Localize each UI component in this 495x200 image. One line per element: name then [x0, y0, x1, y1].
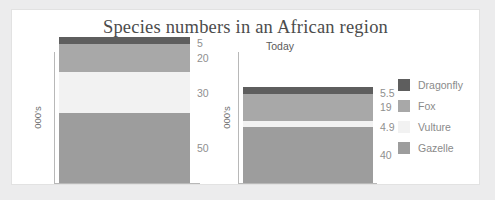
legend-swatch-icon — [398, 100, 410, 112]
chart-legend: DragonflyFoxVultureGazelle — [398, 74, 486, 158]
segment-value-label: 50 — [197, 143, 209, 154]
legend-label: Dragonfly — [418, 79, 463, 91]
segment-value-label: 30 — [197, 87, 209, 98]
legend-label: Vulture — [418, 121, 451, 133]
panel-title-today: Today — [200, 40, 360, 52]
stacked-bar-1960: 5203050 — [59, 37, 190, 183]
segment-value-label: 5.5 — [380, 88, 395, 99]
stacked-bar-today: 5.5194.940 — [243, 87, 373, 183]
segment-value-label: 20 — [197, 53, 209, 64]
y-axis-label-today: 000's — [221, 98, 232, 138]
bar-segment-vulture: 4.9 — [243, 121, 373, 128]
segment-value-label: 19 — [380, 102, 392, 113]
bar-segment-fox: 19 — [243, 94, 373, 120]
legend-swatch-icon — [398, 142, 410, 154]
x-axis-line-today — [238, 183, 377, 184]
bar-segment-fox: 20 — [59, 44, 190, 72]
legend-swatch-icon — [398, 79, 410, 91]
legend-swatch-icon — [398, 121, 410, 133]
chart-title: Species numbers in an African region — [12, 17, 479, 38]
chart-card: Species numbers in an African region 196… — [11, 9, 480, 185]
segment-value-label: 40 — [380, 150, 392, 161]
legend-item-dragonfly[interactable]: Dragonfly — [398, 74, 486, 95]
bar-segment-dragonfly: 5 — [59, 37, 190, 44]
legend-item-fox[interactable]: Fox — [398, 95, 486, 116]
legend-item-vulture[interactable]: Vulture — [398, 116, 486, 137]
chart-panel-1960: 1960 000's 5203050 — [26, 40, 216, 180]
bar-segment-dragonfly: 5.5 — [243, 87, 373, 95]
bar-segment-gazelle: 50 — [59, 113, 190, 183]
chart-panel-today: Today 000's 5.5194.940 — [208, 40, 368, 180]
legend-label: Gazelle — [418, 142, 454, 154]
legend-item-gazelle[interactable]: Gazelle — [398, 137, 486, 158]
bar-segment-gazelle: 40 — [243, 127, 373, 183]
x-axis-line-1960 — [54, 183, 200, 184]
legend-label: Fox — [418, 100, 436, 112]
y-axis-line-1960 — [54, 52, 55, 184]
bar-segment-vulture: 30 — [59, 72, 190, 114]
y-axis-label-1960: 000's — [32, 98, 43, 138]
segment-value-label: 4.9 — [380, 122, 395, 133]
y-axis-line-today — [238, 52, 239, 184]
